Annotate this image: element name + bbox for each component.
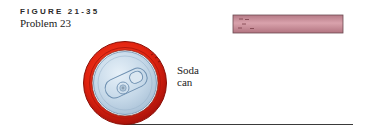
can-label-line1: Soda	[177, 64, 199, 76]
charged-rod	[233, 15, 343, 33]
can-label-line2: can	[177, 76, 199, 88]
soda-can-label: Soda can	[177, 64, 199, 88]
soda-can	[84, 42, 167, 125]
